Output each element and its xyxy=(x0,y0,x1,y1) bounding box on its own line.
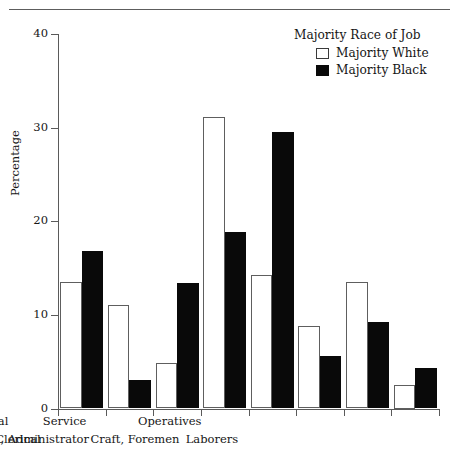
bar-majority-black xyxy=(272,132,294,408)
bar-chart-plot: Percentage 010203040 Professional and Te… xyxy=(0,0,459,464)
legend-entry-majority-white: Majority White xyxy=(316,46,452,60)
x-tick-mark xyxy=(344,409,345,416)
legend-entry-majority-black: Majority Black xyxy=(316,63,452,77)
x-axis-label: Operatives xyxy=(138,415,201,428)
bar-majority-white xyxy=(346,282,368,408)
y-tick-label: 10 xyxy=(22,309,48,321)
bar-majority-black xyxy=(82,251,104,408)
y-tick-mark xyxy=(51,315,58,316)
bar-majority-white xyxy=(108,305,130,409)
bar-majority-white xyxy=(251,275,273,409)
legend-entry-label: Majority Black xyxy=(336,63,427,77)
y-axis-line xyxy=(58,34,59,409)
y-tick-mark xyxy=(51,128,58,129)
x-axis-label: Clerical xyxy=(0,433,41,446)
x-axis-label: Laborers xyxy=(186,433,238,446)
y-tick-mark xyxy=(51,34,58,35)
y-tick-label: 0 xyxy=(22,403,48,415)
x-tick-mark xyxy=(296,409,297,416)
y-tick-label: 30 xyxy=(22,122,48,134)
x-axis-label: Service xyxy=(43,415,87,428)
legend-entry-label: Majority White xyxy=(336,46,429,60)
x-tick-mark xyxy=(391,409,392,416)
bar-majority-white xyxy=(298,326,320,408)
x-tick-mark xyxy=(249,409,250,416)
x-tick-mark xyxy=(439,409,440,416)
x-tick-mark xyxy=(106,409,107,416)
bar-majority-white xyxy=(203,117,225,408)
x-axis-label: Professional and Technical xyxy=(0,415,8,428)
bar-majority-black xyxy=(368,322,390,408)
bar-majority-white xyxy=(60,282,82,408)
bar-majority-black xyxy=(320,356,342,408)
x-axis-label: Craft, Foremen xyxy=(90,433,179,446)
hollow-square-swatch-icon xyxy=(316,48,329,59)
bar-majority-black xyxy=(129,380,151,408)
y-tick-mark xyxy=(51,409,58,410)
y-axis-title: Percentage xyxy=(10,130,22,196)
y-tick-label: 40 xyxy=(22,28,48,40)
chart-page: Percentage 010203040 Professional and Te… xyxy=(0,0,459,464)
bar-majority-black xyxy=(225,232,247,409)
legend-title: Majority Race of Job xyxy=(294,28,452,43)
y-tick-label: 20 xyxy=(22,215,48,227)
bar-majority-white xyxy=(394,385,416,408)
bar-majority-white xyxy=(156,363,178,409)
y-tick-mark xyxy=(51,221,58,222)
bar-majority-black xyxy=(415,368,437,408)
chart-legend: Majority Race of Job Majority White Majo… xyxy=(292,28,452,77)
bar-majority-black xyxy=(177,283,199,408)
filled-square-swatch-icon xyxy=(316,65,329,76)
